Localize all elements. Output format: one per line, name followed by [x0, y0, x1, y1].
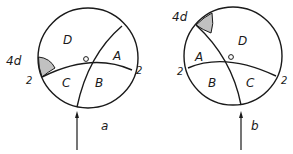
region-label-d: D [238, 34, 247, 48]
shaded-label: 4d [6, 54, 22, 68]
region-label-b: B [208, 76, 216, 90]
region-label-d: D [63, 33, 72, 47]
region-label-a: A [112, 49, 121, 63]
figure-caption: b [251, 119, 259, 133]
region-label-c: C [246, 76, 255, 90]
edge-label-left: 2 [26, 75, 32, 86]
pole-marker [229, 55, 234, 60]
meridian-curve [196, 25, 241, 105]
edge-label-right: 2 [136, 65, 142, 76]
shaded-label: 4d [172, 10, 188, 24]
figure-b: D A B C 4d 2 2 b [172, 7, 287, 150]
figure-caption: a [101, 119, 108, 133]
arrow-head-icon [75, 111, 79, 118]
region-label-c: C [62, 76, 71, 90]
arrow-head-icon [239, 111, 243, 118]
pole-marker [84, 57, 89, 62]
edge-label-right: 2 [281, 75, 287, 86]
region-label-b: B [95, 76, 103, 90]
figure-a: D A C B 4d 2 2 a [6, 8, 142, 150]
meridian-curve [77, 26, 122, 107]
region-label-a: A [194, 50, 203, 64]
diagram-canvas: D A C B 4d 2 2 a D A B C 4d 2 2 b [0, 0, 293, 154]
edge-label-left: 2 [177, 66, 183, 77]
